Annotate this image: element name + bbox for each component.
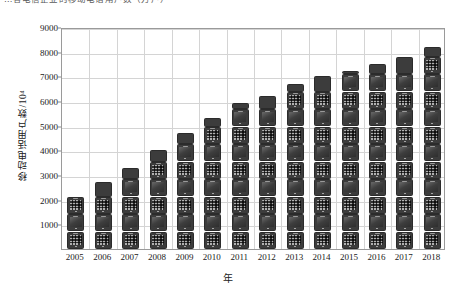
phone-glyph bbox=[314, 179, 331, 196]
phone-screen bbox=[234, 217, 246, 227]
gridline-vertical bbox=[144, 29, 145, 249]
phone-screen bbox=[399, 130, 411, 140]
gridline-horizontal bbox=[62, 226, 444, 227]
phone-glyph bbox=[342, 127, 359, 144]
phone-screen bbox=[344, 200, 356, 210]
gridline-vertical bbox=[281, 29, 282, 249]
phone-speaker-icon bbox=[101, 198, 106, 199]
phone-screen bbox=[179, 147, 191, 157]
phone-glyph-partial bbox=[342, 71, 359, 74]
phone-glyph bbox=[204, 214, 221, 231]
plot-area bbox=[61, 28, 445, 250]
phone-glyph bbox=[342, 74, 359, 91]
phone-screen bbox=[399, 165, 411, 175]
phone-home-button bbox=[212, 228, 214, 229]
phone-home-button bbox=[431, 123, 433, 124]
x-tick-label: 2012 bbox=[258, 252, 276, 262]
phone-screen bbox=[399, 95, 411, 105]
phone-home-button bbox=[239, 228, 241, 229]
phone-speaker-icon bbox=[183, 233, 188, 234]
phone-glyph bbox=[287, 127, 304, 144]
phone-screen bbox=[371, 200, 383, 210]
phone-home-button bbox=[267, 211, 269, 212]
phone-screen bbox=[152, 200, 164, 210]
phone-screen bbox=[152, 235, 164, 245]
phone-screen bbox=[125, 182, 137, 192]
phone-home-button bbox=[322, 246, 324, 247]
phone-screen bbox=[426, 200, 438, 210]
phone-speaker-icon bbox=[430, 198, 435, 199]
gridline-vertical bbox=[336, 29, 337, 249]
gridline-horizontal bbox=[62, 54, 444, 55]
bar-2008 bbox=[150, 150, 167, 249]
phone-glyph bbox=[342, 109, 359, 126]
phone-speaker-icon bbox=[348, 233, 353, 234]
phone-home-button bbox=[404, 88, 406, 89]
phone-speaker-icon bbox=[402, 128, 407, 129]
x-tick-label: 2017 bbox=[395, 252, 413, 262]
phone-screen bbox=[262, 112, 274, 122]
phone-speaker-icon bbox=[73, 198, 78, 199]
phone-glyph bbox=[287, 162, 304, 179]
phone-screen bbox=[262, 130, 274, 140]
phone-screen bbox=[152, 182, 164, 192]
phone-glyph bbox=[259, 232, 276, 249]
phone-glyph bbox=[67, 197, 84, 214]
phone-speaker-icon bbox=[430, 128, 435, 129]
phone-glyph-partial bbox=[122, 168, 139, 179]
chart-figure: …各电信企业的移动电话用户数（万户） 移动电话用户数/10⁴ 100020003… bbox=[0, 0, 456, 304]
x-tick-label: 2005 bbox=[66, 252, 84, 262]
phone-home-button bbox=[294, 246, 296, 247]
phone-screen bbox=[317, 165, 329, 175]
phone-speaker-icon bbox=[320, 163, 325, 164]
phone-glyph bbox=[204, 197, 221, 214]
bar-2012 bbox=[259, 96, 276, 249]
phone-home-button bbox=[184, 158, 186, 159]
phone-speaker-icon bbox=[348, 93, 353, 94]
bar-2014 bbox=[314, 76, 331, 249]
bar-2015 bbox=[342, 71, 359, 249]
phone-screen bbox=[426, 147, 438, 157]
phone-glyph-partial bbox=[204, 118, 221, 126]
phone-glyph-partial bbox=[150, 150, 167, 161]
phone-glyph bbox=[369, 162, 386, 179]
phone-glyph bbox=[396, 214, 413, 231]
phone-screen bbox=[426, 130, 438, 140]
phone-screen bbox=[97, 217, 109, 227]
gridline-vertical bbox=[117, 29, 118, 249]
phone-glyph bbox=[424, 214, 441, 231]
phone-speaker-icon bbox=[320, 198, 325, 199]
phone-glyph bbox=[369, 127, 386, 144]
y-tick-label: 9000 bbox=[40, 23, 58, 33]
phone-glyph bbox=[232, 214, 249, 231]
phone-home-button bbox=[102, 228, 104, 229]
phone-speaker-icon bbox=[402, 93, 407, 94]
phone-home-button bbox=[322, 123, 324, 124]
phone-glyph bbox=[369, 74, 386, 91]
phone-glyph bbox=[314, 109, 331, 126]
y-tick-label: 4000 bbox=[40, 146, 58, 156]
phone-glyph bbox=[150, 214, 167, 231]
phone-screen bbox=[97, 235, 109, 245]
phone-glyph bbox=[424, 57, 441, 74]
phone-screen bbox=[399, 235, 411, 245]
gridline-vertical bbox=[309, 29, 310, 249]
phone-screen bbox=[371, 182, 383, 192]
phone-glyph bbox=[396, 92, 413, 109]
phone-screen bbox=[70, 235, 82, 245]
phone-home-button bbox=[431, 176, 433, 177]
phone-home-button bbox=[267, 141, 269, 142]
phone-speaker-icon bbox=[320, 128, 325, 129]
phone-glyph bbox=[424, 92, 441, 109]
phone-glyph bbox=[369, 232, 386, 249]
phone-screen bbox=[125, 235, 137, 245]
phone-glyph bbox=[342, 179, 359, 196]
x-tick-label: 2015 bbox=[340, 252, 358, 262]
phone-glyph bbox=[232, 179, 249, 196]
phone-glyph bbox=[177, 162, 194, 179]
phone-screen bbox=[207, 165, 219, 175]
phone-glyph bbox=[177, 144, 194, 161]
phone-screen bbox=[70, 200, 82, 210]
phone-home-button bbox=[404, 123, 406, 124]
phone-speaker-icon bbox=[265, 233, 270, 234]
